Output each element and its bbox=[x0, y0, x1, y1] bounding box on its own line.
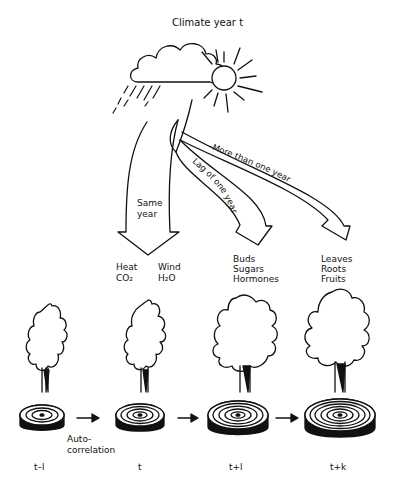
time-label-t-minus-1: t–l bbox=[34, 462, 45, 473]
same-year-arrow bbox=[118, 100, 192, 255]
time-label-t-plus-k: t+k bbox=[330, 462, 346, 473]
autocorrelation-label-line2: correlation bbox=[67, 445, 115, 456]
tree-ring-icon-t-plus-1 bbox=[208, 401, 268, 435]
tree-icon-t-minus-1 bbox=[26, 304, 67, 392]
time-label-t-plus-1: t+l bbox=[229, 462, 243, 473]
arrow-right-icon-2 bbox=[178, 414, 198, 422]
factor-hormones: Hormones bbox=[233, 274, 279, 285]
time-label-t: t bbox=[138, 462, 142, 473]
same-year-label-line1: Same bbox=[137, 198, 163, 209]
factor-h2o: H₂O bbox=[158, 273, 175, 284]
diagram-title: Climate year t bbox=[172, 17, 243, 28]
tree-ring-icon-t-minus-1 bbox=[20, 405, 64, 430]
arrow-right-icon-3 bbox=[276, 414, 298, 422]
tree-icon-t bbox=[124, 300, 165, 392]
tree-ring-icon-t bbox=[116, 404, 164, 431]
factor-fruits: Fruits bbox=[321, 274, 346, 285]
diagram-graphics: Lag of one year –More than one year bbox=[0, 0, 395, 484]
rain-icon bbox=[113, 86, 160, 113]
tree-ring-icon-t-plus-k bbox=[305, 399, 375, 437]
arrow-right-icon-1 bbox=[77, 414, 99, 422]
factor-wind: Wind bbox=[158, 262, 181, 273]
same-year-label-line2: year bbox=[137, 209, 157, 220]
tree-icon-t-plus-k bbox=[305, 289, 369, 392]
factor-heat: Heat bbox=[116, 262, 137, 273]
factor-co2: CO₂ bbox=[116, 273, 133, 284]
climate-tree-ring-diagram: Lag of one year –More than one year Clim… bbox=[0, 0, 395, 484]
autocorrelation-label-line1: Auto- bbox=[67, 434, 91, 445]
tree-icon-t-plus-1 bbox=[213, 295, 277, 392]
